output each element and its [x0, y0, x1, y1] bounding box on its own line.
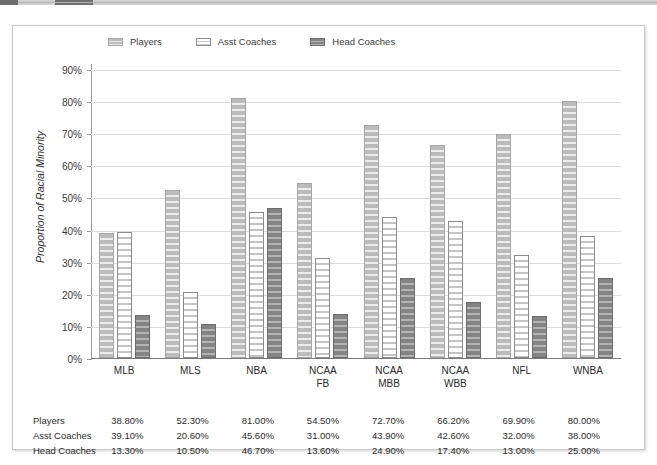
table-cell: 54.50% — [307, 413, 372, 428]
chart-legend: PlayersAsst CoachesHead Coaches — [108, 36, 395, 47]
chart-figure: PlayersAsst CoachesHead Coaches Proporti… — [12, 25, 645, 450]
window-chrome-strip — [0, 0, 657, 5]
bar-players — [364, 125, 379, 358]
bar-players — [99, 233, 114, 358]
y-axis-tick-label: 20% — [62, 289, 82, 300]
bar-players — [165, 190, 180, 358]
x-axis-line — [91, 358, 621, 359]
bar-group-bars — [224, 63, 290, 358]
plot-area: 0%10%20%30%40%50%60%70%80%90%MLBMLSNBANC… — [91, 64, 621, 359]
y-axis-tick-label: 40% — [62, 225, 82, 236]
table-cell: 13.30% — [111, 443, 176, 458]
table-cell: 17.40% — [437, 443, 502, 458]
chrome-divider — [18, 2, 657, 3]
bar-group-bars — [356, 63, 422, 358]
table-cell: 31.00% — [307, 428, 372, 443]
table-cell: 72.70% — [372, 413, 437, 428]
table-row: Asst Coaches39.10%20.60%45.60%31.00%43.9… — [33, 428, 633, 443]
legend-swatch-icon-asst — [196, 38, 211, 46]
legend-label: Head Coaches — [332, 36, 395, 47]
bar-head — [400, 278, 415, 358]
y-axis-tick-label: 30% — [62, 257, 82, 268]
legend-label: Players — [130, 36, 162, 47]
x-axis-category-label: NCAA MBB — [356, 364, 422, 390]
bar-group-bars — [91, 63, 157, 358]
table-cell: 66.20% — [437, 413, 502, 428]
table-row: Players38.80%52.30%81.00%54.50%72.70%66.… — [33, 413, 633, 428]
y-axis-tick-label: 0% — [68, 354, 82, 365]
bar-head — [267, 208, 282, 358]
legend-item-head: Head Coaches — [310, 36, 395, 47]
bar-group-bars — [290, 63, 356, 358]
legend-item-asst: Asst Coaches — [196, 36, 277, 47]
y-axis-tick-label: 90% — [62, 65, 82, 76]
table-cell: 81.00% — [242, 413, 307, 428]
legend-swatch-icon-players — [108, 38, 123, 46]
plot-wrapper: Proportion of Racial Minority 0%10%20%30… — [13, 56, 646, 386]
bar-group-bars — [422, 63, 488, 358]
table-row-header: Head Coaches — [33, 443, 111, 458]
table-cell: 10.50% — [176, 443, 241, 458]
table-cell: 38.00% — [568, 428, 633, 443]
bar-head — [466, 302, 481, 358]
table-cell: 80.00% — [568, 413, 633, 428]
x-axis-category-label: NFL — [489, 364, 555, 377]
table-row-header: Asst Coaches — [33, 428, 111, 443]
y-axis-tick-label: 70% — [62, 129, 82, 140]
bar-head — [135, 315, 150, 358]
table-cell: 69.90% — [502, 413, 567, 428]
bar-players — [297, 183, 312, 358]
bar-group-bars — [157, 63, 223, 358]
bar-players — [496, 134, 511, 358]
bar-asst — [580, 236, 595, 358]
x-axis-category-label: MLB — [91, 364, 157, 377]
bar-head — [598, 278, 613, 358]
bar-group-nfl: NFL — [489, 63, 555, 358]
bar-players — [562, 101, 577, 358]
bar-players — [231, 98, 246, 358]
table-cell: 13.60% — [307, 443, 372, 458]
bar-asst — [448, 221, 463, 358]
table-cell: 25.00% — [568, 443, 633, 458]
bar-asst — [382, 217, 397, 358]
chrome-segment-left — [0, 0, 18, 5]
y-axis-title: Proportion of Racial Minority — [34, 72, 46, 322]
table-cell: 20.60% — [176, 428, 241, 443]
bar-head — [532, 316, 547, 358]
x-axis-category-label: WNBA — [555, 364, 621, 377]
bar-asst — [315, 258, 330, 358]
bar-group-ncaa-fb: NCAA FB — [290, 63, 356, 358]
y-axis-tick-label: 10% — [62, 321, 82, 332]
bar-group-ncaa-mbb: NCAA MBB — [356, 63, 422, 358]
table-cell: 24.90% — [372, 443, 437, 458]
x-axis-category-label: NBA — [224, 364, 290, 377]
bar-group-bars — [489, 63, 555, 358]
legend-swatch-icon-head — [310, 38, 325, 46]
bar-players — [430, 145, 445, 358]
data-table-body: Players38.80%52.30%81.00%54.50%72.70%66.… — [33, 413, 633, 458]
bar-group-bars — [555, 63, 621, 358]
y-axis-tick-label: 80% — [62, 97, 82, 108]
bar-group-mls: MLS — [157, 63, 223, 358]
x-axis-category-label: NCAA WBB — [422, 364, 488, 390]
y-axis-tick-label: 60% — [62, 161, 82, 172]
table-row: Head Coaches13.30%10.50%46.70%13.60%24.9… — [33, 443, 633, 458]
x-axis-category-label: NCAA FB — [290, 364, 356, 390]
bar-group-nba: NBA — [224, 63, 290, 358]
table-cell: 13.00% — [502, 443, 567, 458]
legend-label: Asst Coaches — [218, 36, 277, 47]
bar-asst — [249, 212, 264, 358]
y-axis-tick-label: 50% — [62, 193, 82, 204]
legend-item-players: Players — [108, 36, 162, 47]
bar-asst — [514, 255, 529, 358]
data-table: Players38.80%52.30%81.00%54.50%72.70%66.… — [33, 413, 633, 458]
table-cell: 39.10% — [111, 428, 176, 443]
table-cell: 46.70% — [242, 443, 307, 458]
table-cell: 45.60% — [242, 428, 307, 443]
table-cell: 32.00% — [502, 428, 567, 443]
table-row-header: Players — [33, 413, 111, 428]
table-cell: 43.90% — [372, 428, 437, 443]
bar-asst — [117, 232, 132, 358]
x-axis-category-label: MLS — [157, 364, 223, 377]
bar-head — [201, 324, 216, 358]
